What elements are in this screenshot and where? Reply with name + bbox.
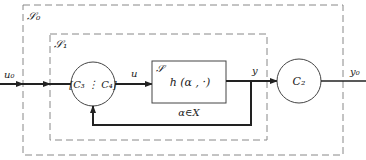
output-block-label: C₂: [293, 75, 306, 88]
outer-system-label: 𝒮₀: [27, 10, 41, 23]
plant-output-label: y: [251, 65, 258, 76]
inner-system-label: 𝒮₁: [54, 38, 67, 51]
plant-function: h (α , ·): [170, 76, 211, 89]
block-diagram: 𝒮₀ 𝒮₁ u₀ [C₃ ⋮ C₄] u 𝒮 h (α , ·) α∈X y C…: [0, 0, 366, 160]
control-signal-label: u: [131, 68, 137, 79]
input-signal-label: u₀: [4, 69, 14, 80]
controller-label: [C₃ ⋮ C₄]: [69, 79, 117, 90]
plant-constraint: α∈X: [178, 107, 200, 118]
final-output-label: y₀: [349, 66, 360, 77]
